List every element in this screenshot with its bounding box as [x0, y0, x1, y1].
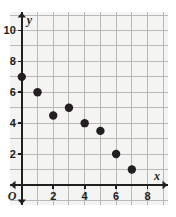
data-point [112, 150, 120, 158]
data-point [80, 119, 88, 127]
data-points [10, 12, 168, 205]
data-point [128, 165, 136, 173]
data-point [18, 73, 26, 81]
y-tick-label: 8 [0, 56, 16, 67]
y-axis-label: y [27, 14, 32, 26]
y-tick-label: 2 [0, 149, 16, 160]
y-tick-label: 6 [0, 87, 16, 98]
x-tick-label: 4 [71, 191, 99, 202]
data-point [65, 104, 73, 112]
data-point [33, 88, 41, 96]
data-point [96, 127, 104, 135]
y-tick-label: 4 [0, 118, 16, 129]
x-tick-label: 2 [39, 191, 67, 202]
x-tick-label: 6 [102, 191, 130, 202]
origin-label: O [8, 190, 17, 202]
plot-panel [10, 12, 168, 205]
y-tick-label: 10 [0, 25, 16, 36]
x-tick-label: 8 [134, 191, 162, 202]
data-point [49, 111, 57, 119]
x-axis-label: x [154, 170, 160, 182]
scatter-plot-figure: 2468102468Oyx [0, 0, 176, 217]
